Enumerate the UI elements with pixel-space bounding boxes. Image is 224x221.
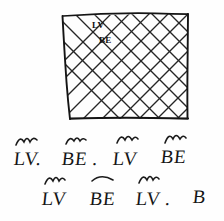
box-label-lv: LV [92,21,104,30]
sketch-canvas: LV BE LV. BE . LV BE LV BE LV . B [0,0,224,221]
annotation-text: LV [112,148,139,170]
annotation-text: LV. [13,148,43,170]
arc-icon [92,177,113,181]
tilde-icon [117,137,138,144]
annotation-row2-item-2: BE [90,188,115,210]
annotation-row1-item-3: LV [113,148,138,170]
annotation-row1-item-4: BE [161,146,186,168]
tilde-icon [139,177,159,184]
box-label-be: BE [99,36,111,45]
tilde-icon [45,178,65,185]
annotation-text: BE [160,146,188,168]
annotation-text: BE [89,188,117,210]
crosshatch-fill [0,4,224,128]
annotation-row1-item-1: LV. [14,148,41,170]
annotation-row2-item-4: B [193,186,206,208]
annotation-text: LV [41,188,68,210]
diacritic-marks-row2 [45,177,159,185]
annotation-text: LV . [135,188,172,210]
tilde-icon [165,136,186,144]
annotation-row1-item-2: BE . [62,148,98,170]
tilde-icon [66,138,86,144]
diacritic-marks-row1 [16,136,186,146]
annotation-row2-item-1: LV [42,188,67,210]
tilde-icon [16,138,37,145]
annotation-text: BE . [61,148,99,170]
annotation-text: B [192,186,207,208]
annotation-row2-item-3: LV . [136,188,171,210]
